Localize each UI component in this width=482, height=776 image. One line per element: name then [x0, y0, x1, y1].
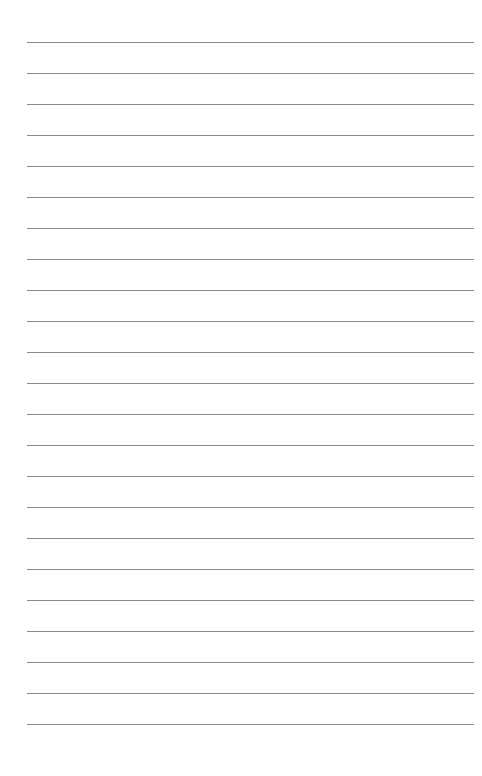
ruled-line [27, 290, 474, 291]
ruled-line [27, 321, 474, 322]
lined-paper-page [0, 0, 482, 776]
ruled-line [27, 104, 474, 105]
ruled-line [27, 569, 474, 570]
ruled-line [27, 662, 474, 663]
ruled-line [27, 73, 474, 74]
ruled-line [27, 600, 474, 601]
ruled-line [27, 259, 474, 260]
ruled-line [27, 42, 474, 43]
ruled-line [27, 476, 474, 477]
ruled-line [27, 197, 474, 198]
ruled-line [27, 631, 474, 632]
ruled-line [27, 538, 474, 539]
ruled-line [27, 445, 474, 446]
ruled-line [27, 507, 474, 508]
ruled-line [27, 724, 474, 725]
ruled-line [27, 414, 474, 415]
ruled-line [27, 166, 474, 167]
ruled-line [27, 135, 474, 136]
ruled-line [27, 228, 474, 229]
ruled-line [27, 693, 474, 694]
ruled-line [27, 383, 474, 384]
ruled-line [27, 352, 474, 353]
